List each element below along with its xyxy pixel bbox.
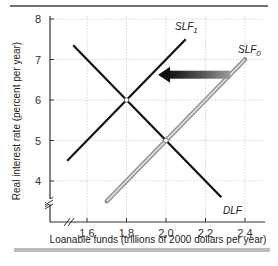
y-tick-label: 8	[35, 13, 41, 25]
shift-arrow	[158, 67, 230, 83]
y-axis-label: Real interest rate (percent per year)	[11, 42, 22, 200]
slf0-curve	[107, 60, 245, 202]
dlf-curve	[73, 45, 221, 197]
y-tick-label: 6	[35, 94, 41, 106]
annotations	[158, 67, 230, 83]
y-tick-label: 7	[35, 54, 41, 66]
y-tick-label: 5	[35, 135, 41, 147]
series: DLFSLF1SLF0	[67, 21, 261, 216]
equilibrium-point	[124, 98, 128, 102]
dlf-label: DLF	[223, 205, 243, 216]
slf1-label: SLF1	[175, 21, 198, 35]
grid	[50, 16, 265, 222]
equilibrium-point	[164, 138, 168, 142]
axis-lines	[50, 16, 265, 222]
loanable-funds-chart: 1.61.82.02.22.445678 DLFSLF1SLF0 Loanabl…	[0, 0, 278, 266]
x-axis-label: Loanable funds (trillions of 2000 dollar…	[50, 234, 267, 245]
y-tick-label: 4	[35, 175, 41, 187]
slf0-label: SLF0	[238, 44, 261, 58]
